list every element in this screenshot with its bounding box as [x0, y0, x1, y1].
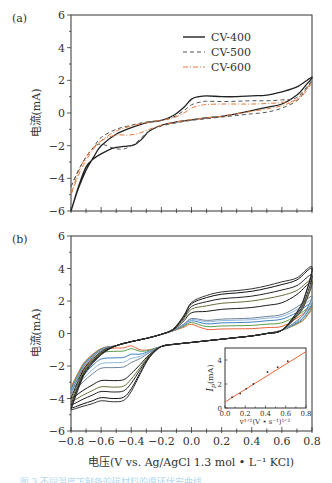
- legend-label-cv600: CV-600: [211, 61, 251, 74]
- x-tick-label: −0.8: [58, 435, 85, 448]
- y-tick-label: 2: [58, 74, 65, 87]
- panel-a-ylabel: 电流(mA): [29, 89, 43, 138]
- x-tick-label: 0.2: [213, 435, 231, 448]
- series-cv-500: [71, 80, 312, 186]
- panel-b-xlabel: 电压(V vs. Ag/AgCl 1.3 mol • L⁻¹ KCl): [88, 456, 294, 469]
- panel-a: 6420−2−4−6: [49, 9, 312, 218]
- svg-text:Ip(mA): Ip(mA): [205, 364, 217, 392]
- figure-caption: 图 3 不同温度下制备的碳材料的循环伏安曲线: [20, 475, 320, 483]
- inset-x-tick-label: 0.4: [260, 410, 272, 418]
- panel-b-label: (b): [12, 233, 28, 246]
- inset-x-tick-label: 0.2: [240, 410, 251, 418]
- inset-y-tick-label: 2: [218, 381, 222, 389]
- legend: CV-400 CV-500 CV-600: [183, 31, 251, 74]
- y-tick-label: −2: [49, 360, 65, 373]
- inset-xlabel: v¹ᐟ²(V • s⁻¹)¹ᐟ²: [239, 418, 291, 426]
- inset-x-tick-label: 0.6: [280, 410, 292, 418]
- x-tick-label: 0.0: [183, 435, 201, 448]
- inset-x-tick-label: 0.8: [300, 410, 311, 418]
- y-tick-label: 6: [58, 9, 65, 22]
- inset-data-point: [277, 366, 279, 368]
- inset-data-point: [245, 388, 247, 390]
- y-tick-label: 0: [58, 107, 65, 120]
- plot-frame: [71, 15, 312, 211]
- series-cv-400: [71, 77, 312, 211]
- y-tick-label: 4: [58, 263, 65, 276]
- inset-ylabel: Ip(mA): [205, 364, 217, 392]
- legend-label-cv500: CV-500: [211, 46, 251, 59]
- cv-figure: 6420−2−4−6 6420−2−4−6−0.8−0.6−0.4−0.20.0…: [0, 0, 332, 483]
- inset-background: [224, 347, 307, 409]
- panel-a-label: (a): [12, 12, 27, 25]
- y-tick-label: −4: [49, 393, 65, 406]
- x-tick-label: −0.4: [118, 435, 145, 448]
- x-tick-label: −0.6: [88, 435, 115, 448]
- x-tick-label: 0.4: [243, 435, 261, 448]
- inset-data-point: [231, 396, 233, 398]
- inset-x-tick-label: 0.0: [219, 410, 230, 418]
- inset-data-point: [287, 360, 289, 362]
- y-tick-label: 0: [58, 328, 65, 341]
- inset-ip-vs-sqrt-scan-rate: 0240.00.20.40.60.8: [218, 347, 312, 418]
- y-tick-label: 6: [58, 230, 65, 243]
- legend-label-cv400: CV-400: [211, 31, 251, 44]
- inset-data-point: [252, 383, 254, 385]
- y-tick-label: −2: [49, 140, 65, 153]
- x-tick-label: −0.2: [148, 435, 175, 448]
- inset-y-tick-label: 4: [218, 357, 223, 365]
- y-tick-label: 2: [58, 295, 65, 308]
- inset-data-point: [239, 393, 241, 395]
- inset-data-point: [267, 371, 269, 373]
- y-tick-label: −4: [49, 172, 65, 185]
- y-tick-label: 4: [58, 42, 65, 55]
- x-tick-label: 0.8: [303, 435, 321, 448]
- y-tick-label: −6: [49, 205, 65, 218]
- panel-b-ylabel: 电流(mA): [29, 309, 43, 358]
- inset-ylabel-unit: (mA): [206, 364, 215, 384]
- x-tick-label: 0.6: [273, 435, 291, 448]
